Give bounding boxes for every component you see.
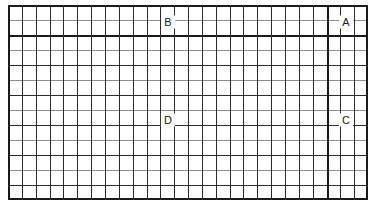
grid-line-vertical bbox=[243, 5, 244, 200]
grid-border-left bbox=[8, 5, 10, 200]
grid-line-vertical bbox=[50, 5, 51, 200]
grid-line-vertical bbox=[202, 5, 203, 200]
grid-line-vertical bbox=[188, 5, 189, 200]
callout-d[interactable]: D bbox=[161, 114, 175, 127]
callout-c[interactable]: C bbox=[339, 114, 353, 127]
grid-line-vertical bbox=[63, 5, 64, 200]
grid-line-vertical bbox=[354, 5, 355, 200]
grid-line-vertical bbox=[271, 5, 272, 200]
grid-line-vertical bbox=[230, 5, 231, 200]
grid-line-vertical bbox=[119, 5, 120, 200]
grid-border-right bbox=[366, 5, 368, 200]
grid-line-vertical bbox=[340, 5, 341, 200]
heavy-vertical-rule bbox=[327, 5, 329, 200]
diagram-canvas: B A D C bbox=[0, 0, 376, 209]
grid-line-vertical bbox=[133, 5, 134, 200]
grid-line-vertical bbox=[22, 5, 23, 200]
grid-line-vertical bbox=[299, 5, 300, 200]
grid-line-vertical bbox=[147, 5, 148, 200]
grid-line-vertical bbox=[77, 5, 78, 200]
grid-line-vertical bbox=[160, 5, 161, 200]
grid-line-vertical bbox=[313, 5, 314, 200]
grid-line-vertical bbox=[285, 5, 286, 200]
grid-line-vertical bbox=[257, 5, 258, 200]
grid-line-vertical bbox=[105, 5, 106, 200]
grid-line-vertical bbox=[174, 5, 175, 200]
callout-a[interactable]: A bbox=[339, 16, 353, 29]
grid-line-vertical bbox=[91, 5, 92, 200]
grid-line-vertical bbox=[36, 5, 37, 200]
grid-frame bbox=[8, 5, 368, 200]
callout-b[interactable]: B bbox=[161, 16, 175, 29]
grid-line-vertical bbox=[216, 5, 217, 200]
